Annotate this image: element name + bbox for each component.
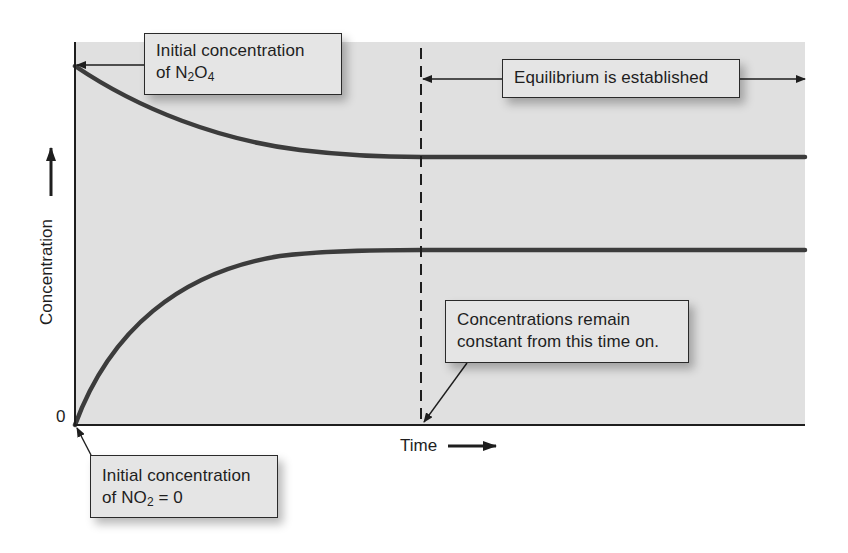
no2-callout-line1: Initial concentration <box>102 465 267 487</box>
no2-callout-line2: of NO2 = 0 <box>102 487 267 510</box>
n2o4-initial-callout: Initial concentration of N2O4 <box>144 33 342 95</box>
origin-tick-label: 0 <box>56 407 65 427</box>
equilibrium-callout: Equilibrium is established <box>502 59 740 98</box>
no2-initial-callout: Initial concentration of NO2 = 0 <box>90 455 278 518</box>
equilibrium-callout-text: Equilibrium is established <box>514 67 729 89</box>
constant-callout: Concentrations remain constant from this… <box>445 300 689 363</box>
y-axis-label: Concentration <box>37 219 57 325</box>
constant-callout-line2: constant from this time on. <box>457 331 678 353</box>
n2o4-callout-line2: of N2O4 <box>156 62 331 85</box>
no2-pointer-arrow <box>77 428 91 455</box>
plot-area <box>75 42 805 425</box>
n2o4-callout-line1: Initial concentration <box>156 40 331 62</box>
constant-callout-line1: Concentrations remain <box>457 309 678 331</box>
x-axis-label: Time <box>400 436 437 456</box>
